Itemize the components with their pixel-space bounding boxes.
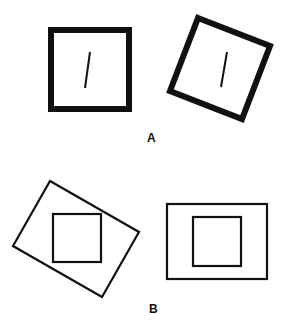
inner-square-left: [53, 214, 101, 262]
panel-a: [51, 18, 270, 119]
inner-square-right: [193, 217, 241, 266]
rotated-thick-frame: [170, 18, 270, 119]
upright-outer-rectangle: [167, 204, 267, 279]
rod-in-rotated-frame: [221, 52, 227, 87]
upright-thick-frame: [51, 30, 129, 109]
panel-a-label: A: [147, 131, 156, 145]
panel-b: [13, 181, 267, 297]
rotated-outer-rectangle: [13, 181, 139, 297]
tilted-rod-in-upright-frame: [85, 52, 90, 88]
panel-b-label: B: [149, 302, 158, 316]
figure-canvas: [0, 0, 284, 326]
